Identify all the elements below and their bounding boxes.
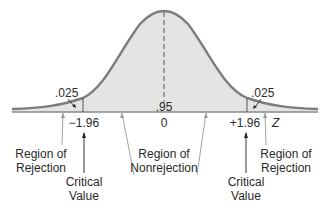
left-tail-area-label: .025 <box>55 86 78 100</box>
right-critical-arrowhead <box>244 132 248 138</box>
right-rejection-line1: Region of <box>260 147 311 161</box>
nonrejection-pointer-right <box>197 113 206 175</box>
left-critical-line1: Critical <box>66 175 103 189</box>
right-critical-value-label: Critical Value <box>228 175 265 203</box>
left-rejection-line2: Rejection <box>15 161 66 175</box>
nonrejection-line1: Region of <box>130 147 197 161</box>
center-area-label: .95 <box>156 100 173 114</box>
tick-neg-1-96: −1.96 <box>69 116 99 130</box>
right-critical-line1: Critical <box>228 175 265 189</box>
tick-zero: 0 <box>161 116 168 130</box>
left-rejection-arrowhead <box>61 113 65 118</box>
left-rejection-line1: Region of <box>15 147 66 161</box>
right-rejection-label: Region of Rejection <box>260 147 311 175</box>
right-rejection-line2: Rejection <box>260 161 311 175</box>
left-critical-arrowhead <box>82 132 86 138</box>
left-rejection-label: Region of Rejection <box>15 147 66 175</box>
nonrejection-label: Region of Nonrejection <box>130 147 197 175</box>
nonrejection-arrowhead-right <box>204 113 208 118</box>
right-rejection-arrowhead <box>263 113 267 118</box>
axis-variable-z: Z <box>272 116 279 130</box>
left-critical-value-label: Critical Value <box>66 175 103 203</box>
nonrejection-line2: Nonrejection <box>130 161 197 175</box>
tick-pos-1-96: +1.96 <box>230 116 260 130</box>
nonrejection-arrowhead-left <box>120 113 124 118</box>
right-tail-area-label: .025 <box>251 86 274 100</box>
right-critical-line2: Value <box>228 189 265 203</box>
left-critical-line2: Value <box>66 189 103 203</box>
